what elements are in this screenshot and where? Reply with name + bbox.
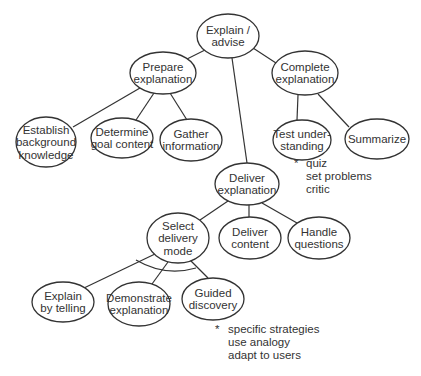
node-label: information <box>163 140 220 152</box>
node-label: explanation <box>218 184 277 196</box>
edge-line <box>200 201 228 220</box>
node-questions: Handlequestions <box>288 217 350 259</box>
note-line: quiz <box>306 157 327 169</box>
node-label: explanation <box>134 73 193 85</box>
node-label: Explain <box>44 290 82 302</box>
node-label: Determine <box>95 126 148 138</box>
node-explain: Explain /advise <box>197 14 259 58</box>
node-label: delivery <box>158 232 198 244</box>
node-deliver: Deliverexplanation <box>215 163 279 205</box>
node-test: Test under-standing <box>273 120 331 160</box>
node-label: standing <box>280 140 323 152</box>
asterisk-marker: * <box>294 157 299 169</box>
edge-line <box>253 48 276 63</box>
node-complete: Completeexplanation <box>272 51 338 95</box>
edge-line <box>170 93 187 120</box>
node-establish: Establishbackgroundknowledge <box>16 117 76 167</box>
node-label: goal content <box>91 138 154 150</box>
node-select: Selectdeliverymode <box>147 213 209 263</box>
node-label: advise <box>211 36 244 48</box>
node-label: Prepare <box>143 61 184 73</box>
node-label: content <box>231 238 270 250</box>
note-line: use analogy <box>228 336 290 348</box>
node-label: explanation <box>110 304 169 316</box>
node-label: Complete <box>280 61 329 73</box>
node-label: Summarize <box>348 133 406 145</box>
node-guided: Guideddiscovery <box>182 278 244 320</box>
asterisk-marker: * <box>215 323 220 335</box>
node-label: Explain / <box>206 24 251 36</box>
node-label: Handle <box>301 226 337 238</box>
edge-line <box>152 262 168 284</box>
guided-note: *specific strategiesuse analogyadapt to … <box>215 323 320 361</box>
edge-line <box>136 93 154 120</box>
node-demonstrate: Demonstrateexplanation <box>106 282 172 326</box>
node-content: Delivercontent <box>219 217 281 259</box>
task-tree-diagram: Explain /advisePrepareexplanationComplet… <box>0 0 421 376</box>
node-gather: Gatherinformation <box>160 119 222 161</box>
test-note: *quizset problemscritic <box>294 157 372 195</box>
node-label: by telling <box>40 302 85 314</box>
node-summarize: Summarize <box>345 119 409 159</box>
note-line: specific strategies <box>228 323 320 335</box>
note-line: set problems <box>306 170 372 182</box>
node-label: Select <box>162 220 195 232</box>
node-determine: Determinegoal content <box>91 118 154 158</box>
node-label: Demonstrate <box>106 292 172 304</box>
node-label: mode <box>164 245 193 257</box>
node-label: Establish <box>23 124 70 136</box>
node-label: Deliver <box>232 226 268 238</box>
node-label: Test under- <box>273 128 331 140</box>
edge-line <box>187 50 205 59</box>
node-telling: Explainby telling <box>32 282 94 322</box>
note-line: adapt to users <box>228 349 301 361</box>
node-label: knowledge <box>19 149 74 161</box>
edge-line <box>232 58 247 163</box>
node-label: Deliver <box>229 172 265 184</box>
node-label: questions <box>294 238 343 250</box>
node-label: Gather <box>173 128 208 140</box>
node-label: Guided <box>194 287 231 299</box>
note-line: critic <box>306 183 330 195</box>
node-prepare: Prepareexplanation <box>130 52 196 94</box>
edge-line <box>297 95 298 120</box>
node-label: explanation <box>276 73 335 85</box>
edge-line <box>318 94 349 127</box>
node-label: discovery <box>189 299 238 311</box>
node-label: background <box>16 136 76 148</box>
